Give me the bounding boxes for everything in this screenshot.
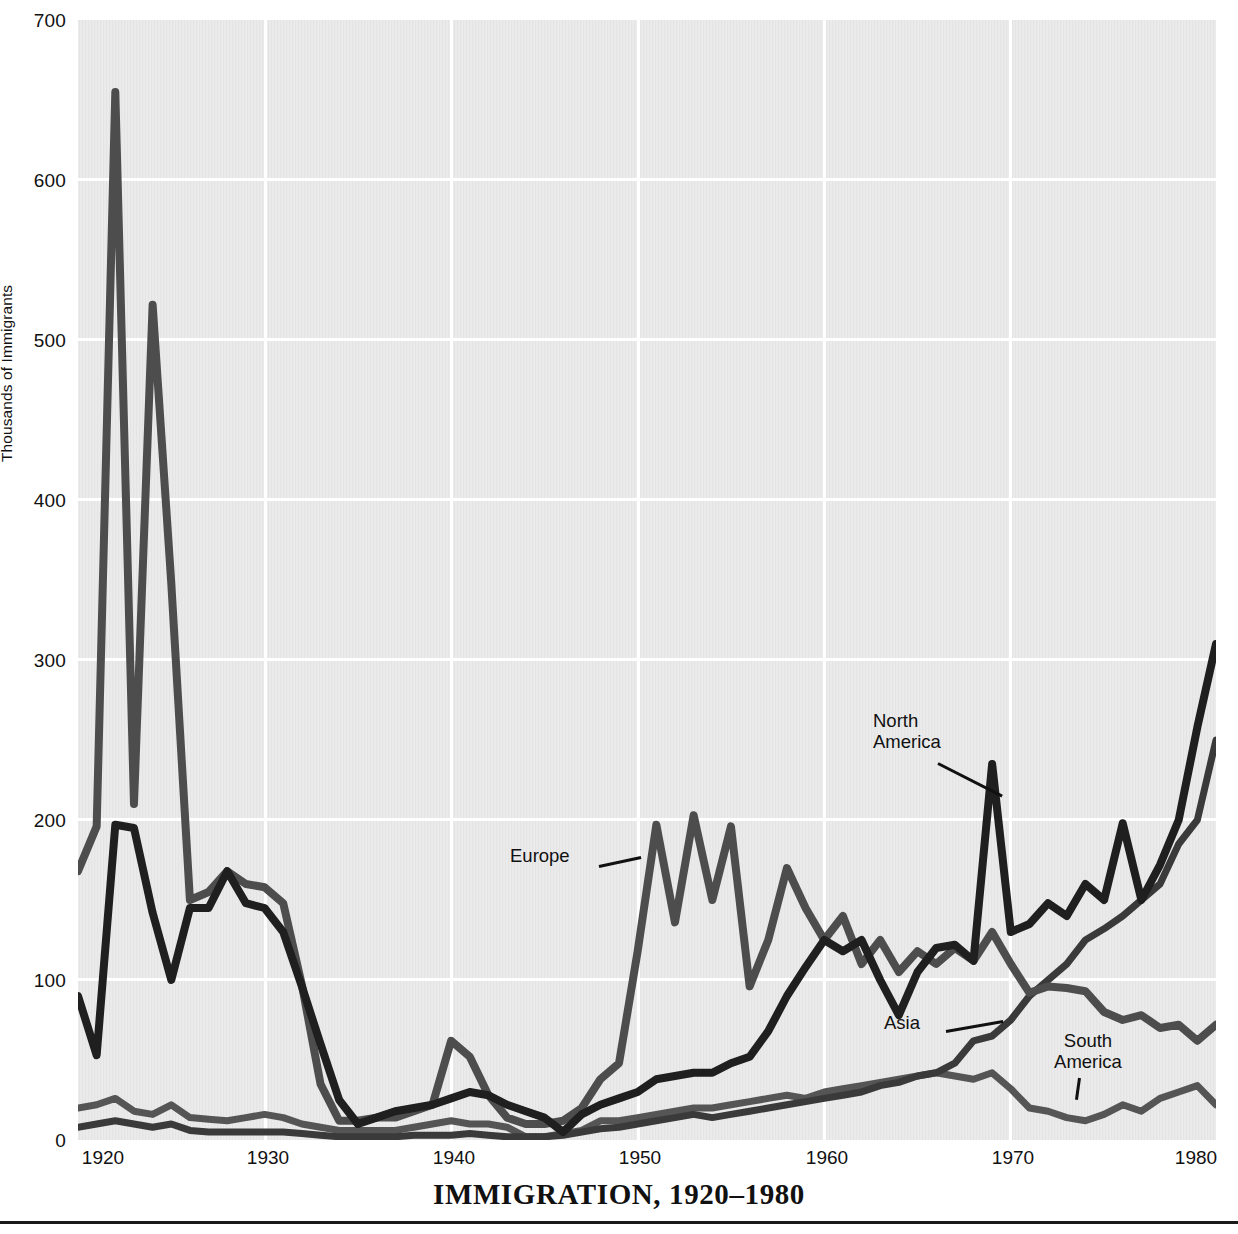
annotation-europe: Europe <box>510 845 570 866</box>
y-tick-label: 0 <box>20 1131 66 1150</box>
annotation-north-america: North America <box>873 710 941 752</box>
series-layer <box>78 20 1216 1140</box>
series-line-asia <box>78 740 1216 1137</box>
y-tick-label: 300 <box>20 651 66 670</box>
y-tick-label: 600 <box>20 171 66 190</box>
x-tick-label: 1960 <box>787 1148 867 1168</box>
plot-area: Europe North America Asia South America <box>78 20 1216 1140</box>
immigration-line-chart: Thousands of Immigrants 700 600 500 400 … <box>0 0 1238 1234</box>
annotation-asia: Asia <box>884 1012 920 1033</box>
x-tick-label: 1980 <box>1156 1148 1236 1168</box>
x-tick-label: 1970 <box>973 1148 1053 1168</box>
y-axis-title: Thousands of Immigrants <box>0 242 16 462</box>
y-tick-label: 400 <box>20 491 66 510</box>
series-line-europe <box>78 92 1216 1124</box>
x-tick-label: 1920 <box>63 1148 143 1168</box>
y-tick-label: 500 <box>20 331 66 350</box>
x-tick-label: 1950 <box>600 1148 680 1168</box>
x-tick-label: 1940 <box>414 1148 494 1168</box>
annotation-south-america: South America <box>1043 1030 1133 1072</box>
y-tick-label: 200 <box>20 811 66 830</box>
bottom-rule <box>0 1221 1238 1224</box>
chart-caption: IMMIGRATION, 1920–1980 <box>0 1178 1238 1211</box>
y-tick-label: 700 <box>20 11 66 30</box>
y-tick-label: 100 <box>20 971 66 990</box>
x-tick-label: 1930 <box>228 1148 308 1168</box>
